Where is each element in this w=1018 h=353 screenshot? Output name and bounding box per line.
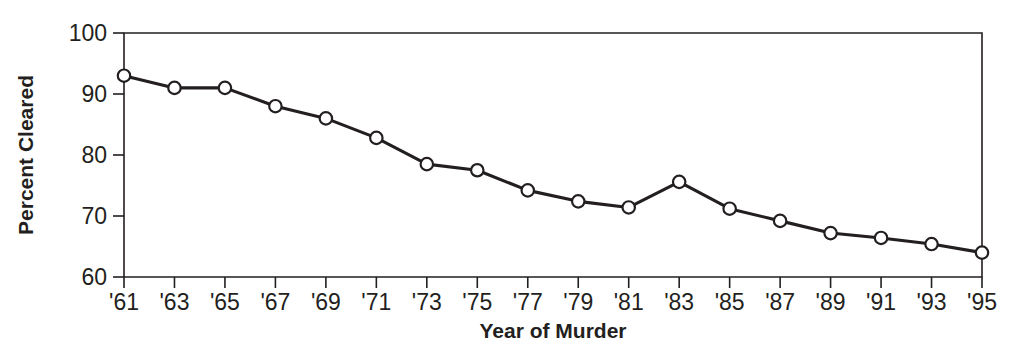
data-point-marker [269, 100, 281, 112]
x-tick-label: '61 [109, 289, 139, 315]
data-point-marker [471, 164, 483, 176]
chart-canvas: 60708090100 '61'63'65'67'69'71'73'75'77'… [0, 0, 1018, 353]
x-tick-label: '83 [664, 289, 694, 315]
x-tick-label: '93 [917, 289, 947, 315]
data-point-marker [572, 195, 584, 207]
y-tick-label: 100 [69, 20, 107, 46]
x-tick-label: '69 [311, 289, 341, 315]
x-tick-label: '73 [412, 289, 442, 315]
data-series-percent-cleared [118, 70, 988, 259]
y-tick-label: 80 [81, 142, 107, 168]
x-tick-label: '77 [513, 289, 543, 315]
y-tick-label: 70 [81, 203, 107, 229]
x-tick-label: '95 [967, 289, 997, 315]
x-tick-label: '85 [715, 289, 745, 315]
data-point-marker [774, 215, 786, 227]
x-tick-label: '87 [765, 289, 795, 315]
x-tick-label: '81 [614, 289, 644, 315]
x-tick-label: '89 [816, 289, 846, 315]
data-point-marker [421, 158, 433, 170]
x-tick-label: '63 [159, 289, 189, 315]
y-tick-label: 60 [81, 264, 107, 290]
data-point-marker [824, 227, 836, 239]
x-axis-ticks: '61'63'65'67'69'71'73'75'77'79'81'83'85'… [109, 277, 997, 315]
data-point-marker [219, 82, 231, 94]
data-point-marker [976, 246, 988, 258]
x-tick-label: '71 [361, 289, 391, 315]
y-tick-label: 90 [81, 81, 107, 107]
plot-border [124, 33, 982, 277]
x-tick-label: '79 [563, 289, 593, 315]
y-axis-title: Percent Cleared [14, 75, 37, 235]
data-point-marker [320, 112, 332, 124]
data-point-marker [875, 232, 887, 244]
x-tick-label: '75 [462, 289, 492, 315]
data-point-marker [673, 176, 685, 188]
series-polyline [124, 76, 982, 253]
plot-frame [124, 33, 982, 277]
data-point-marker [723, 202, 735, 214]
x-axis-title: Year of Murder [479, 319, 626, 342]
data-point-marker [522, 184, 534, 196]
x-tick-label: '91 [866, 289, 896, 315]
x-tick-label: '67 [260, 289, 290, 315]
x-tick-label: '65 [210, 289, 240, 315]
data-point-marker [118, 70, 130, 82]
data-point-marker [623, 201, 635, 213]
y-axis-ticks: 60708090100 [69, 20, 124, 290]
data-point-marker [370, 132, 382, 144]
chart-figure: 60708090100 '61'63'65'67'69'71'73'75'77'… [0, 0, 1018, 353]
data-point-marker [925, 238, 937, 250]
data-point-marker [168, 82, 180, 94]
